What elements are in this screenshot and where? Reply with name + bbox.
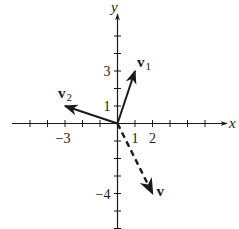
vector-v2-label: v2	[58, 85, 72, 103]
y-tick-label: 3	[104, 64, 111, 79]
axes	[12, 14, 227, 229]
y-tick-label: 1	[104, 99, 111, 114]
x-tick-labels: −312	[56, 131, 156, 146]
vector-diagram: x y −312 31−4 v1v2v	[0, 0, 239, 229]
y-axis-label: y	[109, 0, 118, 15]
vectors: v1v2v	[58, 54, 165, 199]
y-tick-labels: 31−4	[96, 64, 111, 202]
x-axis-label: x	[228, 115, 236, 131]
x-tick-label: 1	[132, 131, 139, 146]
x-tick-label: 2	[149, 131, 156, 146]
vector-v-label: v	[157, 183, 165, 199]
vector-v1-arrow	[118, 71, 136, 124]
x-tick-label: −3	[56, 131, 71, 146]
y-tick-label: −4	[96, 187, 111, 202]
vector-v1-label: v1	[137, 54, 151, 72]
